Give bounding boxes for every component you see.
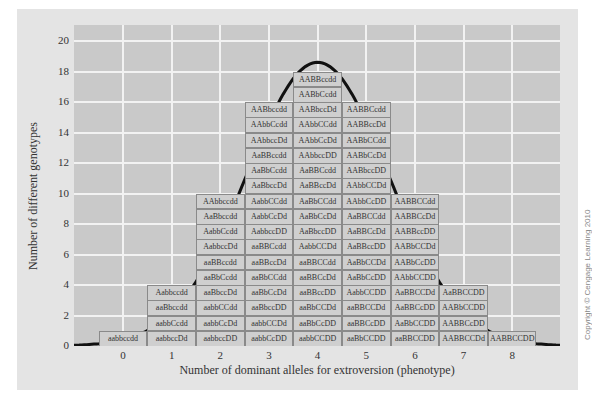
genotype-box: aaBbCCdd — [245, 270, 294, 286]
genotype-box: AABBccDd — [342, 117, 391, 133]
genotype-box: AaBBCcdd — [293, 163, 342, 179]
genotype-box: AaBbCCDd — [342, 255, 391, 271]
genotype-box: AaBBccDd — [293, 178, 342, 194]
genotype-box: AaBBCCDD — [439, 285, 488, 301]
genotype-box: AABBccdd — [293, 72, 342, 88]
genotype-box: aabbCcDd — [196, 316, 245, 332]
genotype-box: aaBBccDD — [293, 285, 342, 301]
genotype-box: AABBccDD — [391, 224, 440, 240]
x-tick-label: 8 — [497, 349, 527, 361]
genotype-box: AaBBccDD — [342, 239, 391, 255]
x-tick-label: 5 — [351, 349, 381, 361]
genotype-box: AaBBCCdd — [342, 209, 391, 225]
genotype-box: AaBbCcdd — [245, 163, 294, 179]
y-tick-label: 16 — [39, 95, 69, 107]
genotype-box: AaBbCCdd — [293, 194, 342, 210]
genotype-box: AABBCCdd — [391, 194, 440, 210]
y-tick-label: 10 — [39, 187, 69, 199]
genotype-box: aabbCcDD — [245, 331, 294, 346]
y-tick-label: 18 — [39, 65, 69, 77]
genotype-box: AaBBCcDd — [342, 224, 391, 240]
genotype-box: aaBBCCdd — [293, 255, 342, 271]
genotype-box: aaBBCCDd — [342, 300, 391, 316]
y-tick-label: 14 — [39, 126, 69, 138]
genotype-box: aaBbccDd — [196, 285, 245, 301]
genotype-box: aaBbccdd — [147, 300, 196, 316]
genotype-box: aaBbCcDd — [245, 285, 294, 301]
genotype-box: aaBBCcDd — [293, 270, 342, 286]
genotype-box: aabbCCDD — [293, 331, 342, 346]
genotype-box: AaBBccdd — [245, 148, 294, 164]
genotype-box: AABbccdd — [245, 102, 294, 118]
plot-area: aabbccddaabbccDdaabbCcddaaBbccddAabbccdd… — [74, 25, 560, 346]
genotype-box: AAbbCCdd — [293, 117, 342, 133]
genotype-box: AABBCcdd — [342, 102, 391, 118]
genotype-box: AabbccDD — [245, 224, 294, 240]
genotype-box: AABbCcDD — [391, 255, 440, 271]
genotype-box: AAbbCcDd — [293, 133, 342, 149]
genotype-box: AaBBCcDD — [391, 300, 440, 316]
genotype-box: AaBbCcDd — [293, 209, 342, 225]
genotype-box: AabbCcdd — [196, 224, 245, 240]
x-tick-label: 0 — [108, 349, 138, 361]
genotype-box: AABBCCDd — [439, 331, 488, 346]
genotype-box: AabbccDd — [196, 239, 245, 255]
x-tick-label: 1 — [157, 349, 187, 361]
genotype-box: AABBCcDd — [391, 209, 440, 225]
genotype-box: AABBCcDD — [439, 316, 488, 332]
genotype-box: AabbCCdd — [245, 194, 294, 210]
y-tick-label: 6 — [39, 248, 69, 260]
genotype-box: AAbbCCDd — [342, 178, 391, 194]
x-tick-label: 3 — [254, 349, 284, 361]
genotype-box: AABBCCDD — [488, 331, 537, 346]
genotype-box: aabbccDd — [147, 331, 196, 346]
genotype-box: AabbCCDd — [293, 239, 342, 255]
genotype-box: AAbbccdd — [196, 194, 245, 210]
genotype-box: AaBbccDD — [293, 224, 342, 240]
genotype-box: AAbbCcdd — [245, 117, 294, 133]
genotype-box: aaBbCCDD — [342, 331, 391, 346]
genotype-box: aabbCCdd — [196, 300, 245, 316]
genotype-box: aaBBccdd — [196, 255, 245, 271]
genotype-box: Aabbccdd — [147, 285, 196, 301]
genotype-box: AABbCcdd — [293, 87, 342, 103]
genotype-box: aaBBccDd — [245, 255, 294, 271]
x-axis-label: Number of dominant alleles for extrovers… — [179, 363, 454, 378]
genotype-box: aaBBCCDD — [391, 331, 440, 346]
genotype-box: AaBbCCDD — [391, 316, 440, 332]
genotype-box: AabbCcDd — [245, 209, 294, 225]
y-tick-label: 2 — [39, 309, 69, 321]
y-axis-label: Number of different genotypes — [26, 122, 41, 270]
genotype-box: aabbCcdd — [147, 316, 196, 332]
genotype-box: aabbCCDd — [245, 316, 294, 332]
genotype-box: AABbCCDd — [391, 239, 440, 255]
genotype-box: AABbccDD — [342, 163, 391, 179]
x-tick-label: 2 — [205, 349, 235, 361]
genotype-box: AABbccDd — [293, 102, 342, 118]
y-tick-label: 20 — [39, 34, 69, 46]
genotype-box: aaBBCcDD — [342, 316, 391, 332]
x-tick-label: 4 — [303, 349, 333, 361]
genotype-box: AaBBCCDd — [391, 285, 440, 301]
genotype-box: aaBBCcdd — [245, 239, 294, 255]
genotype-box: AAbbccDd — [245, 133, 294, 149]
genotype-box: aaBbCcdd — [196, 270, 245, 286]
x-tick-label: 7 — [449, 349, 479, 361]
genotype-box: AabbCCDD — [342, 285, 391, 301]
genotype-box: AAbbccDD — [293, 148, 342, 164]
genotype-box: AaBbccdd — [196, 209, 245, 225]
genotype-box: aaBbCcDD — [293, 316, 342, 332]
genotype-box: aaBbccDD — [245, 300, 294, 316]
y-tick-label: 8 — [39, 217, 69, 229]
y-tick-label: 0 — [39, 339, 69, 351]
copyright-notice: Copyright © Cengage Learning 2010 — [583, 210, 592, 340]
genotype-box: AABbCCDD — [439, 300, 488, 316]
genotype-box: AABbCcDd — [342, 148, 391, 164]
y-tick-label: 4 — [39, 278, 69, 290]
y-tick-label: 12 — [39, 156, 69, 168]
genotype-box: aabbccdd — [99, 331, 148, 346]
genotype-box: AaBbCcDD — [342, 270, 391, 286]
x-tick-label: 6 — [400, 349, 430, 361]
genotype-box: AaBbccDd — [245, 178, 294, 194]
genotype-box: aabbccDD — [196, 331, 245, 346]
